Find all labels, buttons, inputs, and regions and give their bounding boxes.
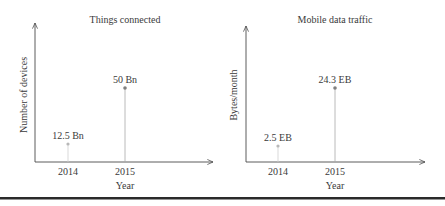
value-label-2015: 24.3 EB — [319, 74, 352, 85]
point-2015 — [333, 86, 337, 90]
bottom-rule — [0, 197, 445, 200]
point-2015 — [123, 86, 127, 90]
value-label-2014: 2.5 EB — [264, 132, 292, 143]
x-axis-label: Year — [326, 180, 345, 191]
point-2014 — [276, 144, 279, 147]
figure: Things connected Number of devices 12.5 … — [0, 0, 445, 206]
value-label-2015: 50 Bn — [113, 74, 137, 85]
chart-title: Things connected — [90, 14, 161, 25]
y-axis-label: Bytes/month — [228, 69, 239, 120]
x-tick-2015: 2015 — [115, 166, 135, 177]
x-tick-2014: 2014 — [268, 166, 288, 177]
chart-title: Mobile data traffic — [298, 14, 373, 25]
point-2014 — [66, 142, 69, 145]
y-axis-label: Number of devices — [18, 57, 29, 133]
chart-mobile-data-traffic: Mobile data traffic Bytes/month 2.5 EB 2… — [228, 14, 425, 191]
x-tick-2014: 2014 — [58, 166, 78, 177]
chart-things-connected: Things connected Number of devices 12.5 … — [18, 14, 213, 191]
x-axis-label: Year — [116, 180, 135, 191]
value-label-2014: 12.5 Bn — [52, 130, 84, 141]
x-tick-2015: 2015 — [325, 166, 345, 177]
